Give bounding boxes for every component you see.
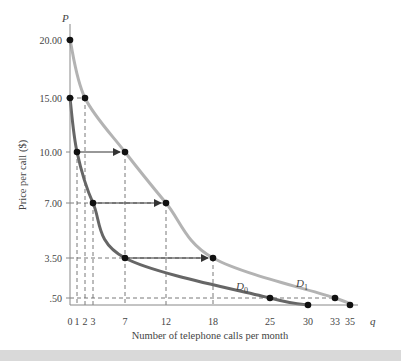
x-tick-label: 0 — [68, 316, 73, 327]
demand-curves — [70, 40, 350, 305]
curve-d1 — [70, 40, 350, 305]
x-tick-label: 30 — [303, 316, 313, 327]
point-d1 — [332, 295, 339, 302]
bottom-band — [0, 350, 401, 361]
y-axis-symbol: P — [61, 12, 69, 24]
shift-arrows — [77, 152, 208, 258]
point-d1 — [347, 302, 354, 309]
point-d0 — [267, 295, 274, 302]
axis-labels: .503.507.0010.0015.0020.0001237121825303… — [17, 12, 376, 341]
x-axis-title: Number of telephone calls per month — [132, 330, 289, 341]
x-tick-label: 18 — [208, 316, 218, 327]
y-tick-label: 3.50 — [45, 253, 63, 264]
point-d1 — [210, 255, 217, 262]
x-tick-label: 1 — [75, 316, 80, 327]
point-d0 — [90, 200, 97, 207]
x-tick-label: 35 — [345, 316, 355, 327]
y-tick-label: 7.00 — [45, 198, 63, 209]
point-d0 — [122, 255, 129, 262]
point-d1 — [67, 37, 74, 44]
point-d1 — [163, 200, 170, 207]
x-tick-label: 2 — [83, 316, 88, 327]
x-axis-symbol: q — [370, 315, 376, 327]
x-tick-label: 25 — [265, 316, 275, 327]
dashed-guides — [70, 98, 335, 305]
y-tick-label: .50 — [50, 293, 63, 304]
x-tick-label: 3 — [91, 316, 96, 327]
y-axis-title: Price per call ($) — [17, 139, 29, 210]
x-tick-label: 33 — [330, 316, 340, 327]
point-d0 — [67, 95, 74, 102]
data-points — [67, 37, 354, 309]
point-d1 — [122, 149, 129, 156]
x-tick-label: 7 — [123, 316, 128, 327]
point-d1 — [82, 95, 89, 102]
y-tick-label: 20.00 — [40, 35, 63, 46]
y-tick-label: 10.00 — [40, 147, 63, 158]
demand-shift-chart: .503.507.0010.0015.0020.0001237121825303… — [0, 0, 401, 350]
axes — [66, 24, 358, 305]
x-tick-label: 12 — [161, 316, 171, 327]
point-d0 — [305, 302, 312, 309]
y-tick-label: 15.00 — [40, 93, 63, 104]
point-d0 — [74, 149, 81, 156]
